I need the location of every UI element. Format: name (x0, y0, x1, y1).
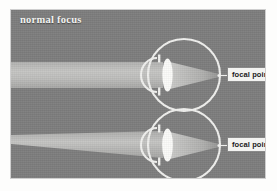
callout-focal-point-top: focal point (227, 67, 266, 82)
bottom-eye-panel (11, 109, 228, 178)
iris-top-stop-top (158, 55, 160, 63)
eye-focus-diagram (11, 10, 265, 178)
lens-bottom (162, 129, 173, 162)
illustration-plate: normal focus focal point focal point (10, 9, 266, 179)
lens-top (162, 59, 172, 92)
iris-top-stop-bottom (158, 125, 160, 133)
iris-bottom-stop-top (158, 88, 160, 96)
converging-ray-cone-bottom (166, 131, 219, 160)
iris-bottom-stop-bottom (158, 158, 160, 166)
top-eye-panel (11, 39, 228, 111)
figure-root: normal focus focal point focal point (0, 0, 277, 191)
callout-focal-point-bottom: focal point (227, 137, 266, 152)
figure-title: normal focus (20, 14, 82, 25)
converging-ray-cone-top (166, 61, 219, 90)
